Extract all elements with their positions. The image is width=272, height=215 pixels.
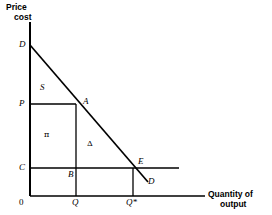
label-quantity-monopoly: Q xyxy=(72,198,79,207)
label-quantity-competitive: Q* xyxy=(126,198,137,207)
label-consumer-surplus: S xyxy=(40,83,45,92)
y-axis-title: Price cost xyxy=(6,3,31,23)
y-axis-title-line2: cost xyxy=(14,13,31,23)
label-origin: 0 xyxy=(19,198,24,207)
label-demand-bottom: D xyxy=(148,177,155,186)
x-axis-title-line2: output xyxy=(220,200,253,210)
demand-curve xyxy=(30,45,148,182)
label-point-b: B xyxy=(68,170,74,179)
label-point-e: E xyxy=(138,157,144,166)
label-cost-axis: C xyxy=(19,163,25,172)
monopoly-welfare-diagram xyxy=(0,0,272,215)
diagram-canvas: Price cost Quantity of output D P C A B … xyxy=(0,0,272,215)
label-demand-top: D xyxy=(19,40,26,49)
label-profit: π xyxy=(44,131,49,139)
x-axis-title: Quantity of output xyxy=(208,190,253,210)
label-point-a: A xyxy=(83,97,89,106)
label-price-axis: P xyxy=(19,99,25,108)
label-deadweight-loss: Δ xyxy=(87,140,93,148)
